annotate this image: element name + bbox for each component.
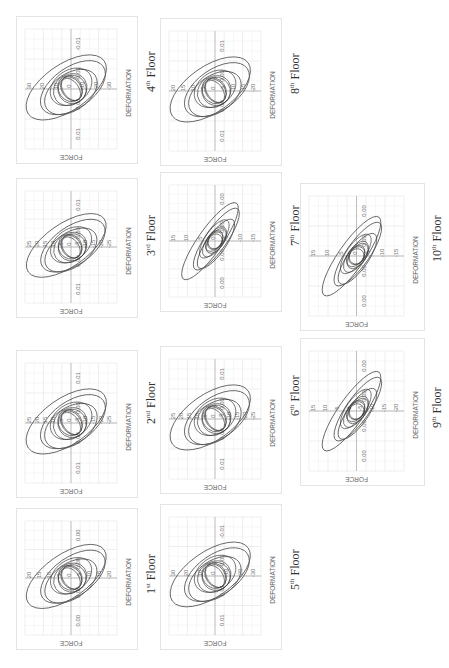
caption-floor7: 7th Floor	[288, 206, 303, 246]
svg-text:FORCE: FORCE	[344, 321, 367, 328]
svg-text:-20: -20	[98, 415, 104, 424]
hysteresis-plot: 0.010.000.000.0120151050-5-10-15-20DEFOR…	[161, 19, 283, 167]
svg-text:-0.01: -0.01	[219, 524, 225, 538]
svg-text:FORCE: FORCE	[203, 640, 226, 647]
svg-text:20: 20	[170, 84, 176, 91]
chart-floor4: -0.01-0.010.010.013020100-10-20-30DEFORM…	[16, 16, 138, 164]
svg-text:-25: -25	[106, 239, 112, 248]
svg-text:15: 15	[170, 234, 176, 241]
svg-text:-20: -20	[106, 570, 112, 579]
hysteresis-plot: 0.000.000.000.00151050-5-10-15DEFORMATIO…	[301, 184, 426, 332]
svg-text:-15: -15	[234, 411, 240, 420]
hysteresis-plot: 0.000.000.000.00151050-5-10-15DEFORMATIO…	[161, 173, 283, 313]
hysteresis-plot: -0.01-0.010.010.013020100-10-20-30DEFORM…	[17, 17, 139, 165]
svg-text:10: 10	[183, 234, 189, 241]
svg-text:DEFORMATION: DEFORMATION	[125, 558, 132, 606]
svg-text:-10: -10	[379, 248, 385, 257]
svg-text:15: 15	[42, 416, 48, 423]
chart-floor10: 0.000.000.000.00151050-5-10-15DEFORMATIO…	[300, 183, 425, 331]
svg-text:0.00: 0.00	[361, 235, 367, 247]
chart-floor6: 0.010.000.000.012520151050-5-10-15-20-25…	[160, 346, 282, 494]
hysteresis-plot: 0.000.000.000.0020151050-5-10-15-20DEFOR…	[17, 509, 139, 651]
svg-text:DEFORMATION: DEFORMATION	[269, 71, 276, 119]
svg-text:-25: -25	[250, 411, 256, 420]
svg-text:15: 15	[310, 404, 316, 411]
caption-floor5: 5th Floor	[288, 550, 303, 590]
svg-text:0.00: 0.00	[361, 205, 367, 217]
svg-text:-20: -20	[393, 403, 399, 412]
hysteresis-plot: 0.010.000.000.012520151050-5-10-15-20-25…	[17, 351, 139, 499]
svg-text:0.00: 0.00	[361, 450, 367, 462]
svg-text:DEFORMATION: DEFORMATION	[412, 236, 419, 284]
svg-text:0.01: 0.01	[219, 368, 225, 380]
caption-floor9: 9th Floor	[430, 388, 445, 428]
svg-text:DEFORMATION: DEFORMATION	[125, 227, 132, 275]
svg-text:0.00: 0.00	[361, 295, 367, 307]
hysteresis-plot: 0.000.000.000.00151050-5-10-15-20DEFORMA…	[301, 339, 426, 487]
svg-text:-5: -5	[357, 405, 363, 411]
chart-floor2: 0.010.000.000.012520151050-5-10-15-20-25…	[16, 350, 138, 498]
chart-floor9: 0.000.000.000.00151050-5-10-15-20DEFORMA…	[300, 338, 425, 486]
svg-text:15: 15	[310, 249, 316, 256]
svg-text:30: 30	[26, 82, 32, 89]
chart-floor5: -0.01-0.010.010.013020100-10-20-30DEFORM…	[160, 504, 282, 650]
svg-text:15: 15	[36, 571, 42, 578]
caption-floor4: 4th Floor	[144, 52, 159, 92]
svg-text:0.01: 0.01	[219, 40, 225, 52]
svg-text:FORCE: FORCE	[59, 154, 82, 161]
svg-text:0.00: 0.00	[75, 614, 81, 626]
svg-text:-15: -15	[250, 233, 256, 242]
svg-text:0.00: 0.00	[361, 360, 367, 372]
svg-text:DEFORMATION: DEFORMATION	[125, 69, 132, 117]
svg-text:0.01: 0.01	[75, 462, 81, 474]
svg-text:0.01: 0.01	[219, 130, 225, 142]
svg-text:0.00: 0.00	[75, 529, 81, 541]
chart-floor8: 0.010.000.000.0120151050-5-10-15-20DEFOR…	[160, 18, 282, 166]
svg-text:-0.01: -0.01	[75, 37, 81, 51]
svg-text:DEFORMATION: DEFORMATION	[269, 221, 276, 269]
caption-floor3: 3rd Floor	[144, 215, 159, 256]
svg-text:25: 25	[170, 412, 176, 419]
svg-text:0.00: 0.00	[361, 390, 367, 402]
hysteresis-plot: 0.010.000.000.012520151050-5-10-15-20-25…	[161, 347, 283, 495]
svg-text:FORCE: FORCE	[203, 156, 226, 163]
caption-floor6: 6th Floor	[288, 376, 303, 416]
svg-text:0.01: 0.01	[219, 458, 225, 470]
hysteresis-plot: -0.01-0.010.010.013020100-10-20-30DEFORM…	[161, 505, 283, 651]
svg-text:0.01: 0.01	[219, 614, 225, 626]
svg-text:0.00: 0.00	[219, 277, 225, 289]
caption-floor2: 2nd Floor	[144, 382, 159, 424]
svg-text:-20: -20	[250, 83, 256, 92]
svg-text:0.01: 0.01	[75, 128, 81, 140]
caption-floor10: 10th Floor	[430, 216, 445, 262]
svg-text:-30: -30	[250, 568, 256, 577]
svg-text:-10: -10	[237, 233, 243, 242]
svg-text:FORCE: FORCE	[59, 640, 82, 647]
svg-text:15: 15	[186, 412, 192, 419]
svg-text:DEFORMATION: DEFORMATION	[412, 391, 419, 439]
svg-text:0.00: 0.00	[219, 193, 225, 205]
caption-floor8: 8th Floor	[288, 54, 303, 94]
svg-text:-15: -15	[393, 248, 399, 257]
chart-floor7: 0.000.000.000.00151050-5-10-15DEFORMATIO…	[160, 172, 282, 312]
svg-text:DEFORMATION: DEFORMATION	[269, 399, 276, 447]
svg-text:25: 25	[26, 416, 32, 423]
caption-floor1: 1st Floor	[144, 554, 159, 594]
svg-text:-30: -30	[106, 81, 112, 90]
svg-text:FORCE: FORCE	[59, 488, 82, 495]
svg-text:30: 30	[170, 569, 176, 576]
svg-text:0.01: 0.01	[75, 283, 81, 295]
svg-text:-10: -10	[82, 239, 88, 248]
svg-text:0.01: 0.01	[75, 199, 81, 211]
svg-text:-25: -25	[106, 415, 112, 424]
svg-text:25: 25	[26, 240, 32, 247]
svg-text:FORCE: FORCE	[203, 484, 226, 491]
svg-text:DEFORMATION: DEFORMATION	[269, 556, 276, 604]
svg-text:-20: -20	[242, 411, 248, 420]
svg-text:20: 20	[26, 571, 32, 578]
hysteresis-plot: 0.010.000.000.012520151050-5-10-15-20-25…	[17, 179, 139, 319]
svg-text:10: 10	[324, 249, 330, 256]
chart-floor1: 0.000.000.000.0020151050-5-10-15-20DEFOR…	[16, 508, 138, 650]
svg-text:DEFORMATION: DEFORMATION	[125, 403, 132, 451]
chart-floor3: 0.010.000.000.012520151050-5-10-15-20-25…	[16, 178, 138, 318]
